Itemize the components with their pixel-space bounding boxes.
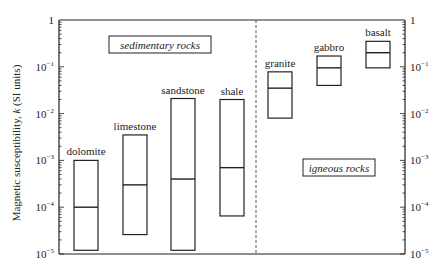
y-tick-label-left: 10−2 [36, 107, 55, 120]
boxes: dolomitelimestonesandstoneshalegranitega… [66, 26, 390, 250]
range-box [366, 41, 390, 68]
y-tick-label-left: 10−3 [36, 153, 55, 166]
y-tick-label-right: 10−1 [410, 60, 429, 73]
box-gabbro: gabbro [314, 41, 345, 85]
category-label: limestone [114, 120, 157, 132]
y-tick-label-right: 10−5 [410, 247, 429, 260]
range-box [171, 99, 195, 251]
category-label: basalt [365, 26, 391, 38]
box-limestone: limestone [114, 120, 157, 235]
box-basalt: basalt [365, 26, 391, 68]
category-label: dolomite [66, 145, 105, 157]
range-box [220, 100, 244, 216]
y-tick-label-left: 1 [49, 14, 55, 26]
category-label: sandstone [161, 84, 205, 96]
box-dolomite: dolomite [66, 145, 105, 250]
annotations: sedimentary rocksigneous rocks [109, 36, 375, 176]
y-tick-label-right: 10−4 [410, 200, 429, 213]
igneous-rocks-label: igneous rocks [303, 159, 375, 176]
category-label: shale [221, 85, 244, 97]
label-text: igneous rocks [309, 162, 369, 174]
category-label: granite [265, 57, 296, 69]
y-tick-label-right: 1 [410, 14, 416, 26]
category-label: gabbro [314, 41, 345, 53]
y-axis-title: Magnetic susceptibility, k (SI units) [10, 64, 23, 221]
box-granite: granite [265, 57, 296, 118]
y-tick-label-left: 10−4 [36, 200, 55, 213]
range-box [317, 56, 341, 85]
y-tick-label-left: 10−1 [36, 60, 55, 73]
susceptibility-chart: 1110−110−110−210−210−310−310−410−410−510… [0, 0, 446, 272]
label-text: sedimentary rocks [120, 39, 200, 51]
y-tick-label-right: 10−3 [410, 153, 429, 166]
range-box [74, 160, 98, 250]
y-tick-label-left: 10−5 [36, 247, 55, 260]
sedimentary-rocks-label: sedimentary rocks [109, 36, 211, 53]
range-box [268, 72, 292, 118]
box-shale: shale [220, 85, 244, 216]
box-sandstone: sandstone [161, 84, 205, 251]
y-tick-label-right: 10−2 [410, 107, 429, 120]
